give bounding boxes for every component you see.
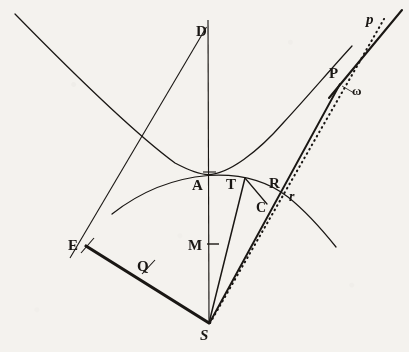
label-E: E [68,238,78,253]
label-r: r [289,190,294,204]
line-S-through-Q-to-T [209,178,245,323]
lower-conic-curve [112,175,336,247]
parabola-upper-curve [15,14,352,175]
label-p: p [366,12,374,27]
label-D: D [196,24,207,39]
label-omega: ω [352,84,362,97]
label-S: S [200,328,208,343]
label-P: P [329,66,338,81]
label-T: T [226,177,236,192]
line-D-to-E [70,27,207,258]
label-M: M [188,238,202,253]
geometry-figure [0,0,409,352]
line-S-through-R-to-P [210,84,341,323]
label-A: A [192,178,203,193]
curves-group [15,14,352,247]
label-R: R [269,176,280,191]
label-C: C [256,201,266,215]
lines-group [70,10,402,323]
label-Q: Q [137,259,149,274]
